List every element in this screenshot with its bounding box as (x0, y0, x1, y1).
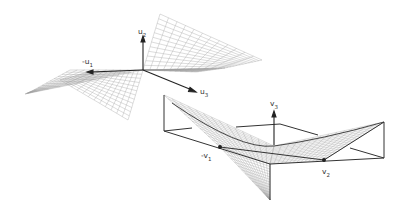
neg-u1-label: -u1 (82, 58, 93, 68)
neg-v1-label: -v1 (201, 152, 211, 162)
u3-label: u3 (200, 88, 208, 98)
neg-v1-point-icon (219, 146, 222, 149)
u2-label: u2 (138, 28, 146, 38)
diagram-canvas: u2 -u1 u3 v3 -v1 v2 (0, 0, 404, 211)
v3-label: v3 (270, 100, 278, 110)
top-axes (87, 36, 196, 92)
saddle-surfaces-figure (0, 0, 404, 211)
v3-arrowhead-icon (272, 111, 276, 117)
bottom-saddle-ridge (172, 103, 384, 146)
neg-u1-arrowhead-icon (87, 70, 93, 74)
v2-point-icon (323, 159, 326, 162)
u3-arrowhead-icon (189, 88, 197, 93)
u3-axis (143, 70, 192, 90)
v2-label: v2 (322, 168, 330, 178)
